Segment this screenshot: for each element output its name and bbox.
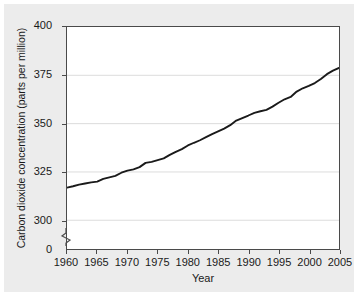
y-tick-label: 300 — [4, 215, 60, 226]
x-tick-mark — [188, 250, 189, 254]
x-tick-mark — [249, 250, 250, 254]
data-line-co2 — [67, 27, 339, 249]
x-tick-label: 2005 — [320, 256, 360, 268]
y-tick-mark — [62, 172, 66, 173]
x-tick-mark — [66, 250, 67, 254]
x-tick-mark — [127, 250, 128, 254]
y-tick-mark — [62, 124, 66, 125]
y-tick-label: 325 — [4, 166, 60, 177]
x-tick-mark — [157, 250, 158, 254]
y-tick-mark — [62, 26, 66, 27]
axis-break-icon — [60, 228, 72, 246]
y-tick-label: 375 — [4, 69, 60, 80]
chart-panel: Carbon dioxide concentration (parts per … — [4, 4, 354, 292]
x-tick-mark — [340, 250, 341, 254]
x-tick-mark — [279, 250, 280, 254]
x-tick-mark — [96, 250, 97, 254]
x-tick-mark — [310, 250, 311, 254]
plot-area — [66, 26, 340, 250]
figure-container: Carbon dioxide concentration (parts per … — [0, 0, 364, 301]
y-tick-label: 350 — [4, 118, 60, 129]
x-tick-mark — [218, 250, 219, 254]
x-axis-title: Year — [66, 272, 340, 285]
y-tick-label: 0 — [4, 244, 60, 255]
y-tick-mark — [62, 221, 66, 222]
y-tick-mark — [62, 75, 66, 76]
y-tick-label: 400 — [4, 20, 60, 31]
